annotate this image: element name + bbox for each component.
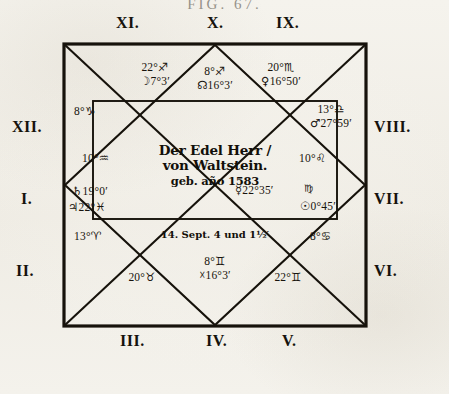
cusp-i-degree-block: 10°♒ — [82, 151, 109, 165]
cusp-i-degree-line: 10°♒ — [82, 151, 109, 165]
cusp-ii-degree-line: 13°♈ — [74, 229, 101, 243]
cusp-iii-degree-line: 20°♉ — [104, 270, 180, 284]
cusp-x-planet-pos: 16°3′ — [208, 79, 233, 91]
inscription-text: Der Edel Herr / von Waltstein. geb. año … — [153, 143, 277, 189]
cusp-ix-planet-pos: 16°50′ — [270, 75, 301, 87]
cusp-ix-degree-line: 20°♏ — [238, 60, 324, 74]
cusp-viii-degree-line: 13°♎ — [294, 102, 368, 116]
cusp-xii-degree-line: 8°♑ — [74, 104, 95, 118]
cusp-xi-planet-pos: 7°3′ — [151, 75, 170, 87]
cusp-vi: 8°♋ — [310, 229, 331, 243]
saturn-icon: ♄ — [72, 184, 83, 198]
cusp-i-jupiter-pos: 22° — [79, 201, 96, 213]
cusp-iv-planet-pos: 16°3′ — [205, 269, 230, 281]
cusp-i-saturn-block: ♄19°0′ — [72, 184, 108, 198]
cusp-vii-degree-block: 10°♌ — [299, 151, 326, 165]
cusp-vi-degree-line: 8°♋ — [310, 229, 331, 243]
cusp-i-jupiter-block: ♃22°♓ — [68, 200, 106, 214]
scorpio-icon: ♏ — [284, 60, 295, 74]
house-label-x: X. — [207, 14, 224, 32]
cusp-vii-sun-pos: 0°45′ — [311, 200, 336, 212]
moon-icon: ☽ — [140, 74, 151, 88]
cusp-i-degree: 10° — [82, 152, 99, 164]
house-label-vii: VII. — [374, 190, 404, 208]
cusp-i-saturn-line: ♄19°0′ — [72, 184, 108, 198]
cusp-vi-degree: 8° — [310, 230, 321, 242]
house-label-ii: II. — [16, 262, 34, 280]
cusp-viii-planet-line: ♂27°59′ — [294, 116, 368, 130]
cusp-i-saturn-pos: 19°0′ — [83, 185, 108, 197]
capricorn-icon: ♑ — [85, 104, 96, 118]
venus-icon: ♀ — [261, 74, 270, 88]
figure-page: FIG. 67. XI. X. IX. XII. I. II. VIII. VI… — [0, 0, 449, 394]
cusp-v-degree-line: 22°♊ — [250, 270, 326, 284]
cusp-vii-sun-block: ☉0°45′ — [300, 199, 336, 213]
aquarius-icon: ♒ — [99, 151, 110, 165]
aries-icon: ♈ — [91, 229, 102, 243]
cusp-ii: 13°♈ — [74, 229, 101, 243]
mars-icon: ♂ — [310, 116, 321, 130]
pisces-icon: ♓ — [95, 200, 106, 214]
cusp-vii-degree-line: 10°♌ — [299, 151, 326, 165]
cusp-vii-degree: 10° — [299, 152, 316, 164]
cusp-vii-sun-line: ☉0°45′ — [300, 199, 336, 213]
horoscope-chart: XI. X. IX. XII. I. II. VIII. VII. VI. II… — [60, 40, 370, 330]
cusp-iv-planet-line: ☓16°3′ — [174, 268, 256, 282]
house-label-iii: III. — [120, 332, 145, 350]
house-label-v: V. — [282, 332, 297, 350]
cusp-viii-planet-pos: 27°59′ — [321, 117, 352, 129]
north-node-icon: ☊ — [197, 78, 207, 92]
cusp-iii-degree: 20° — [128, 271, 145, 283]
virgo-icon: ♍ — [304, 183, 313, 194]
figure-caption: FIG. 67. — [0, 0, 449, 13]
taurus-icon: ♉ — [145, 270, 156, 284]
cusp-viii: 13°♎ ♂27°59′ — [294, 102, 368, 130]
sagittarius-icon: ♐ — [215, 64, 226, 78]
cusp-x-degree: 8° — [204, 65, 215, 77]
house-label-ix: IX. — [276, 14, 299, 32]
inscription-born-line: geb. año 1583 — [153, 174, 277, 189]
leo-icon: ♌ — [316, 151, 327, 165]
gemini-icon: ♊ — [291, 270, 302, 284]
house-label-i: I. — [21, 190, 32, 208]
cusp-iii: 20°♉ — [104, 270, 180, 284]
sagittarius-icon: ♐ — [158, 60, 169, 74]
cusp-ix: 20°♏ ♀16°50′ — [238, 60, 324, 88]
sun-icon: ☉ — [300, 199, 311, 213]
cusp-i-jupiter-line: ♃22°♓ — [68, 200, 106, 214]
cusp-xii: 8°♑ — [74, 104, 95, 118]
cusp-xi-degree: 22° — [141, 61, 158, 73]
cusp-viii-degree: 13° — [317, 103, 334, 115]
jupiter-icon: ♃ — [68, 200, 79, 214]
libra-icon: ♎ — [334, 102, 345, 116]
cusp-xii-degree: 8° — [74, 105, 85, 117]
house-label-iv: IV. — [206, 332, 227, 350]
cusp-vii-virgo-mark: ♍ — [304, 183, 313, 195]
house-label-xii: XII. — [12, 118, 42, 136]
inscription-name-line1: Der Edel Herr / — [153, 143, 277, 158]
house-label-viii: VIII. — [374, 118, 411, 136]
cusp-ii-degree: 13° — [74, 230, 91, 242]
inscription-name-line2: von Waltstein. — [153, 158, 277, 173]
house-label-xi: XI. — [116, 14, 139, 32]
center-inscription-box: Der Edel Herr / von Waltstein. geb. año … — [153, 141, 277, 259]
cusp-v: 22°♊ — [250, 270, 326, 284]
house-label-vi: VI. — [374, 262, 397, 280]
cusp-ix-degree: 20° — [267, 61, 284, 73]
cusp-v-degree: 22° — [274, 271, 291, 283]
inscription-date-line: 14. Sept. 4 und 1½′ — [153, 229, 277, 240]
cusp-ix-planet-line: ♀16°50′ — [238, 74, 324, 88]
cancer-icon: ♋ — [321, 229, 332, 243]
